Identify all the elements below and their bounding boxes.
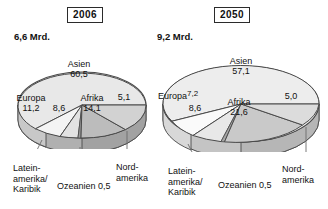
- slice-label-europa-2050: Europa7,2: [158, 91, 198, 102]
- slice-label-lateinamerika-2050: 8,6: [183, 103, 207, 113]
- outer-label-nordamerika-2006: Nord-amerika: [116, 162, 148, 183]
- slice-label-asien-2006: Asien 60,5: [44, 59, 114, 79]
- outer-label-ozeanien-2050: Ozeanien 0,5: [218, 180, 272, 191]
- slice-label-lateinamerika-2006: 8,6: [48, 103, 70, 113]
- slice-value-lateinamerika-2006: 8,6: [53, 103, 66, 113]
- slice-name-afrika-2006: Afrika: [80, 93, 103, 103]
- outer-label-lateinamerika-2006: Latein-amerika/Karibik: [13, 163, 48, 195]
- pie-chart-2006: Asien 60,5 Europa 11,2 8,6 Afrika 14,1 5…: [0, 44, 164, 149]
- slice-value-afrika-2050: 21,6: [230, 107, 248, 117]
- slice-value-europa-2050: 7,2: [187, 89, 198, 98]
- total-label-2006: 6,6 Mrd.: [14, 31, 50, 42]
- slice-name-europa-2006: Europa: [16, 93, 45, 103]
- outer-label-nordamerika-2050: Nord-amerika: [282, 164, 314, 185]
- outer-label-ozeanien-2006: Ozeanien 0,5: [57, 181, 111, 192]
- year-box-2006: 2006: [67, 7, 103, 23]
- leader-line-lateinamerika-2006: [30, 140, 42, 164]
- slice-name-europa-2050: Europa: [158, 91, 187, 101]
- outer-label-lateinamerika-2050: Latein-amerika/Karibik: [168, 166, 203, 198]
- slice-value-asien-2006: 60,5: [70, 69, 88, 79]
- slice-value-nordamerika-2050: 5,0: [285, 91, 298, 101]
- slice-name-asien-2006: Asien: [68, 59, 91, 69]
- figure-canvas: 2006 6,6 Mrd.: [0, 0, 328, 209]
- slice-name-afrika-2050: Afrika: [227, 97, 250, 107]
- slice-label-asien-2050: Asien 57,1: [205, 56, 277, 76]
- slice-label-nordamerika-2050: 5,0: [279, 91, 303, 101]
- slice-value-asien-2050: 57,1: [232, 66, 250, 76]
- slice-label-nordamerika-2006: 5,1: [112, 92, 136, 102]
- slice-label-afrika-2050: Afrika 21,6: [215, 97, 263, 117]
- slice-label-afrika-2006: Afrika 14,1: [70, 93, 114, 113]
- slice-value-nordamerika-2006: 5,1: [118, 92, 131, 102]
- slice-value-europa-2006: 11,2: [23, 103, 40, 113]
- slice-value-lateinamerika-2050: 8,6: [189, 103, 202, 113]
- year-box-2050: 2050: [214, 7, 250, 23]
- slice-name-asien-2050: Asien: [230, 56, 253, 66]
- slice-value-afrika-2006: 14,1: [83, 103, 101, 113]
- total-label-2050: 9,2 Mrd.: [157, 31, 193, 42]
- pie-chart-2050: Asien 57,1 Europa7,2 8,6 Afrika 21,6 5,0: [155, 42, 328, 152]
